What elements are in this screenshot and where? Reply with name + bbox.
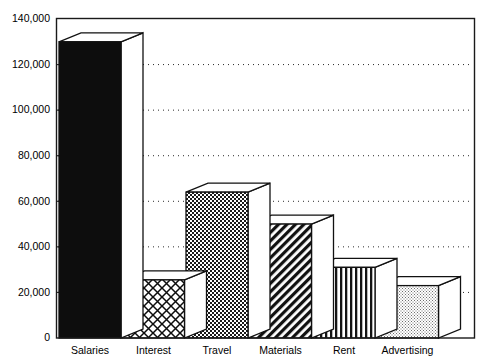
y-axis-tick-label: 20,000 xyxy=(18,286,50,298)
y-axis-tick-label: 0 xyxy=(44,331,50,343)
y-axis-tick-label: 40,000 xyxy=(18,240,50,252)
bar-salaries xyxy=(59,33,143,338)
bar-side-face xyxy=(312,215,334,338)
x-axis-tick-label: Travel xyxy=(203,344,232,356)
x-axis-tick-label: Interest xyxy=(136,344,171,356)
bar-side-face xyxy=(375,258,397,338)
y-axis-tick-label: 120,000 xyxy=(12,58,50,70)
bars-group xyxy=(59,33,461,338)
chart-canvas: 020,00040,00060,00080,000100,000120,0001… xyxy=(0,0,488,362)
x-axis-labels: AdvertisingRentMaterialsTravelInterestSa… xyxy=(71,344,434,356)
bar-side-face xyxy=(121,33,143,338)
y-axis-tick-label: 100,000 xyxy=(12,103,50,115)
bar-chart: 020,00040,00060,00080,000100,000120,0001… xyxy=(0,0,488,362)
x-axis-tick-label: Salaries xyxy=(71,344,109,356)
x-axis-tick-label: Materials xyxy=(259,344,302,356)
bar-side-face xyxy=(439,277,461,338)
y-axis-tick-label: 80,000 xyxy=(18,149,50,161)
bar-front-face xyxy=(59,42,121,338)
bar-side-face xyxy=(248,183,270,338)
x-axis-tick-label: Advertising xyxy=(382,344,434,356)
y-axis-tick-label: 60,000 xyxy=(18,195,50,207)
x-axis-tick-label: Rent xyxy=(333,344,355,356)
bar-side-face xyxy=(185,271,207,338)
y-axis-tick-label: 140,000 xyxy=(12,12,50,24)
y-axis-labels: 020,00040,00060,00080,000100,000120,0001… xyxy=(12,12,50,343)
